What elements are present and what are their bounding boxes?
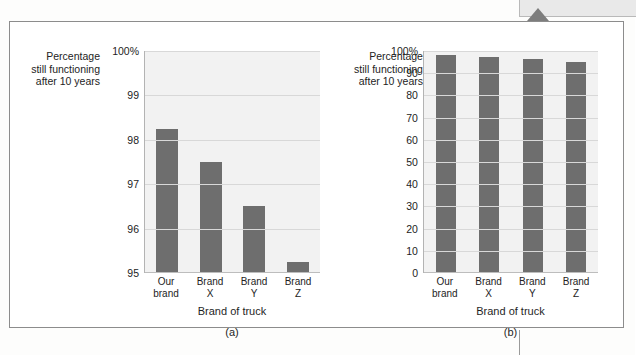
y-tick-label: 100% bbox=[112, 45, 139, 57]
bar-slot bbox=[189, 51, 233, 273]
bar-group-a bbox=[145, 51, 320, 273]
y-tick-label: 40 bbox=[406, 178, 418, 190]
gridline bbox=[145, 51, 320, 52]
y-axis-title-a: Percentage still functioning after 10 ye… bbox=[20, 50, 100, 88]
plot-area-a: 9596979899100% bbox=[144, 51, 320, 273]
gridline bbox=[145, 229, 320, 230]
gridline bbox=[424, 162, 598, 163]
x-tick-labels-b: Our brandBrand XBrand YBrand Z bbox=[423, 276, 598, 300]
y-tick-label: 70 bbox=[406, 112, 418, 124]
y-tick-label: 97 bbox=[127, 178, 139, 190]
panel-label-b: (b) bbox=[423, 326, 598, 338]
bar[interactable] bbox=[523, 59, 543, 273]
gridline bbox=[145, 184, 320, 185]
bar-slot bbox=[276, 51, 320, 273]
charts-row: Percentage still functioning after 10 ye… bbox=[10, 22, 623, 327]
gridline bbox=[145, 95, 320, 96]
gridline bbox=[424, 251, 598, 252]
x-tick-label: Brand Y bbox=[232, 276, 276, 300]
panel-label-a: (a) bbox=[144, 326, 320, 338]
gridline bbox=[145, 272, 320, 273]
y-tick-label: 10 bbox=[406, 245, 418, 257]
gridline bbox=[145, 140, 320, 141]
bar-slot bbox=[233, 51, 277, 273]
y-tick-label: 95 bbox=[127, 267, 139, 279]
y-tick-label: 99 bbox=[127, 89, 139, 101]
x-tick-label: Our brand bbox=[423, 276, 467, 300]
x-tick-label: Brand Y bbox=[510, 276, 554, 300]
plot-area-b: 0102030405060708090100% bbox=[423, 51, 598, 273]
bar[interactable] bbox=[156, 129, 178, 273]
bar[interactable] bbox=[243, 206, 265, 273]
y-tick-label: 96 bbox=[127, 223, 139, 235]
chart-panel-b: Percentage still functioning after 10 ye… bbox=[327, 22, 623, 327]
bar[interactable] bbox=[479, 57, 499, 273]
y-tick-label: 100% bbox=[391, 45, 418, 57]
x-tick-label: Brand Z bbox=[554, 276, 598, 300]
bar-slot bbox=[145, 51, 189, 273]
x-axis-title-a: Brand of truck bbox=[144, 305, 320, 317]
gridline bbox=[424, 206, 598, 207]
x-tick-label: Our brand bbox=[144, 276, 188, 300]
y-tick-label: 90 bbox=[406, 67, 418, 79]
x-tick-label: Brand Z bbox=[276, 276, 320, 300]
x-tick-labels-a: Our brandBrand XBrand YBrand Z bbox=[144, 276, 320, 300]
y-tick-label: 20 bbox=[406, 223, 418, 235]
gridline bbox=[424, 73, 598, 74]
x-tick-label: Brand X bbox=[188, 276, 232, 300]
gridline bbox=[424, 95, 598, 96]
triangle-pointer-icon bbox=[527, 8, 549, 21]
gridline bbox=[424, 51, 598, 52]
gridline bbox=[424, 118, 598, 119]
gridline bbox=[424, 140, 598, 141]
y-tick-label: 50 bbox=[406, 156, 418, 168]
gridline bbox=[424, 229, 598, 230]
gridline bbox=[424, 184, 598, 185]
y-tick-label: 98 bbox=[127, 134, 139, 146]
y-tick-label: 30 bbox=[406, 200, 418, 212]
bar[interactable] bbox=[436, 55, 456, 273]
gridline bbox=[424, 272, 598, 273]
bar[interactable] bbox=[200, 162, 222, 273]
chart-panel-a: Percentage still functioning after 10 ye… bbox=[10, 22, 327, 327]
bar[interactable] bbox=[566, 62, 586, 273]
figure-frame: Percentage still functioning after 10 ye… bbox=[9, 21, 624, 328]
x-axis-title-b: Brand of truck bbox=[423, 305, 598, 317]
y-tick-label: 0 bbox=[412, 267, 418, 279]
x-tick-label: Brand X bbox=[467, 276, 511, 300]
y-tick-label: 60 bbox=[406, 134, 418, 146]
y-tick-label: 80 bbox=[406, 89, 418, 101]
